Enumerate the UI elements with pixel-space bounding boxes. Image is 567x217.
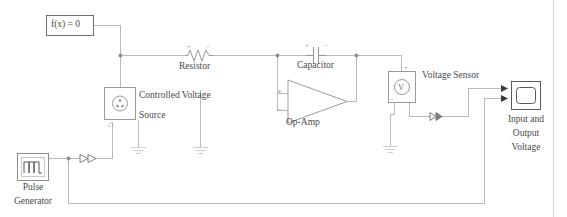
simulink-diagram-canvas: f(x) = 0 + − Resistor + − Capacitor + − … (0, 0, 567, 217)
resistor-plus-terminal: + (187, 43, 191, 51)
voltage-sensor-minus-terminal: − (390, 96, 394, 104)
op-amp-plus-terminal: + (277, 86, 282, 96)
capacitor-plus-terminal: + (305, 42, 309, 50)
ground-opamp (193, 148, 208, 154)
op-amp-label: Op-Amp (286, 117, 320, 128)
voltage-sensor-label: Voltage Sensor (422, 70, 479, 81)
voltage-sensor-plus-terminal: + (404, 64, 408, 72)
scope-label-line1: Input and (496, 114, 556, 125)
resistor-zigzag-icon (185, 50, 213, 61)
wiring-layer (0, 0, 567, 217)
pulse-generator-label-line2: Generator (2, 196, 64, 207)
ground-sensor (383, 147, 398, 153)
scope-screen-icon (512, 82, 541, 110)
capacitor-minus-terminal: − (324, 42, 328, 50)
signal-arrow-pulse-to-source (80, 155, 96, 163)
voltage-sensor-glyph: V (398, 82, 404, 92)
pulse-waveform-icon (18, 154, 49, 181)
signal-arrow-sensor-to-scope (430, 113, 442, 121)
junction-pulse-node (67, 157, 71, 161)
scope-label-line2: Output (496, 128, 556, 139)
junction-solver-node (119, 54, 123, 58)
resistor-label: Resistor (179, 61, 210, 72)
wire-sensor-minus-to-ground (391, 102, 395, 146)
wire-solver-to-node (94, 26, 121, 56)
controlled-voltage-source-port-marker: △ (108, 120, 113, 128)
scope-label-line3: Voltage (496, 142, 556, 153)
controlled-voltage-source-label-line2: Source (139, 110, 165, 121)
pulse-generator-label-line1: Pulse (10, 182, 56, 193)
controlled-voltage-source-label-line1: Controlled Voltage (139, 90, 211, 101)
capacitor-label: Capacitor (297, 60, 334, 71)
wire-riser-to-scope-in1 (469, 89, 508, 117)
ground-source (131, 148, 146, 154)
wire-node-to-sensor-plus (357, 56, 402, 72)
junction-capacitor-left (276, 54, 280, 58)
solver-configuration-label: f(x) = 0 (51, 19, 80, 30)
wire-opamp-out-to-capright (347, 56, 357, 102)
junction-capacitor-right (355, 54, 359, 58)
wire-capleft-to-opamp-minus (278, 56, 289, 111)
scope-input-arrowheads (501, 85, 508, 102)
wire-sensor-signal-out (409, 102, 430, 117)
op-amp-minus-terminal: − (277, 104, 282, 114)
resistor-minus-terminal: − (206, 43, 210, 51)
circle-source-icon (105, 88, 136, 120)
